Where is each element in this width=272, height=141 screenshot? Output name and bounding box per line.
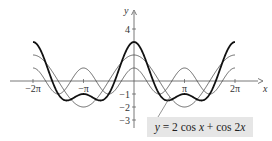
x-tick-label: π xyxy=(182,83,187,94)
axis-ticks: −2π−ππ2π4−1−2−3 xyxy=(25,24,240,126)
y-tick-label: −1 xyxy=(119,89,130,100)
x-axis xyxy=(10,79,263,84)
x-tick-label: −π xyxy=(78,83,89,94)
y-tick-label: 4 xyxy=(125,24,130,35)
x-tick-label: 2π xyxy=(230,83,240,94)
x-axis-label: x xyxy=(262,83,268,94)
annotation-text: y = 2 cos x + cos 2x xyxy=(147,117,253,137)
y-axis xyxy=(132,10,137,128)
y-axis-label: y xyxy=(123,5,129,16)
y-tick-label: −2 xyxy=(119,102,130,113)
annotation-box: y = 2 cos x + cos 2x xyxy=(147,117,253,137)
y-tick-label: −3 xyxy=(119,115,130,126)
x-tick-label: −2π xyxy=(25,83,41,94)
